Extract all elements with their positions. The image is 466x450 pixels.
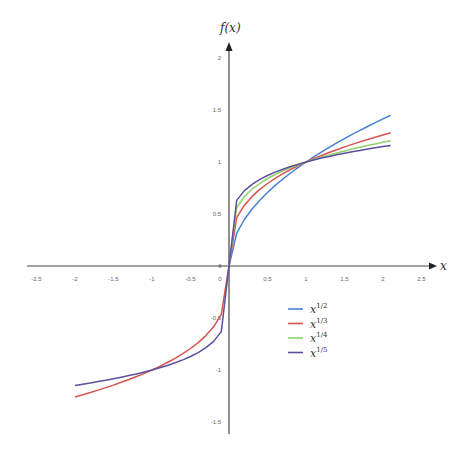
y-tick-labels: 21.510.5-0.5-1-1.5 xyxy=(211,55,222,425)
series-line-x-pow-1-3 xyxy=(75,133,391,397)
x-axis-arrow-icon xyxy=(429,263,437,270)
y-tick-label: -1 xyxy=(216,367,222,373)
series-line-x-pow-1-2 xyxy=(229,115,391,266)
x-tick-label: 2 xyxy=(381,276,385,282)
x-tick-label: -2 xyxy=(72,276,78,282)
x-tick-label: 1 xyxy=(304,276,308,282)
origin-marker xyxy=(218,264,222,268)
y-axis-title: f(x) xyxy=(219,21,241,35)
x-tick-label: 0.5 xyxy=(263,276,272,282)
x-axis-title: x xyxy=(440,259,447,273)
x-tick-label: 0 xyxy=(218,276,222,282)
y-tick-label: 1.5 xyxy=(213,107,222,113)
x-tick-label: -2.5 xyxy=(31,276,42,282)
legend-label: x1/4 xyxy=(310,331,328,345)
series-lines xyxy=(75,115,391,397)
axes: x f(x) xyxy=(27,21,447,434)
legend-label: x1/5 xyxy=(310,346,327,360)
legend-label: x1/2 xyxy=(310,302,327,316)
y-tick-label: 0.5 xyxy=(213,211,222,217)
x-tick-label: 2.5 xyxy=(417,276,426,282)
y-tick-label: -1.5 xyxy=(211,419,222,425)
y-axis-arrow-icon xyxy=(226,42,233,51)
y-tick-label: 1 xyxy=(218,159,222,165)
chart-canvas: x f(x) -2.5-2-1.5-1-0.500.511.522.5 21.5… xyxy=(0,0,466,450)
legend: x1/2x1/3x1/4x1/5 xyxy=(288,302,328,360)
x-tick-label: 1.5 xyxy=(340,276,349,282)
x-tick-label: -1.5 xyxy=(108,276,119,282)
x-tick-label: -0.5 xyxy=(185,276,196,282)
x-tick-label: -1 xyxy=(149,276,155,282)
y-tick-label: 2 xyxy=(218,55,222,61)
legend-label: x1/3 xyxy=(310,317,327,331)
